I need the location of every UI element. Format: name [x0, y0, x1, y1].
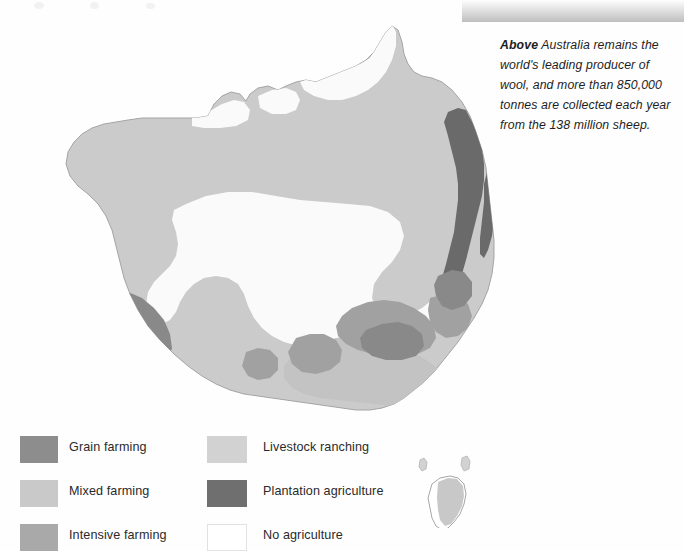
legend-swatch-livestock-ranching	[207, 436, 247, 463]
legend-swatch-plantation-agriculture	[207, 480, 247, 507]
legend-label-mixed-farming: Mixed farming	[69, 484, 149, 498]
legend-label-livestock-ranching: Livestock ranching	[263, 440, 369, 454]
photo-caption: Above Australia remains the world's lead…	[500, 36, 676, 136]
legend-swatch-grain-farming	[20, 436, 58, 463]
caption-text: Australia remains the world's leading pr…	[500, 38, 670, 132]
legend-label-grain-farming: Grain farming	[69, 440, 147, 454]
island-flinders-island	[461, 456, 470, 471]
legend-swatch-mixed-farming	[20, 480, 58, 507]
region-intensive-farming-southwest-margin	[68, 298, 106, 344]
legend-label-intensive-farming: Intensive farming	[69, 528, 167, 542]
legend-label-no-agriculture: No agriculture	[263, 528, 343, 542]
legend-swatch-no-agriculture	[207, 524, 247, 551]
island-tasmania	[428, 476, 466, 528]
island-king-island	[419, 458, 427, 471]
map-legend: Grain farming Mixed farming Intensive fa…	[20, 436, 420, 540]
legend-label-plantation-agriculture: Plantation agriculture	[263, 484, 384, 498]
legend-swatch-intensive-farming	[20, 524, 58, 551]
caption-lead: Above	[500, 38, 538, 52]
